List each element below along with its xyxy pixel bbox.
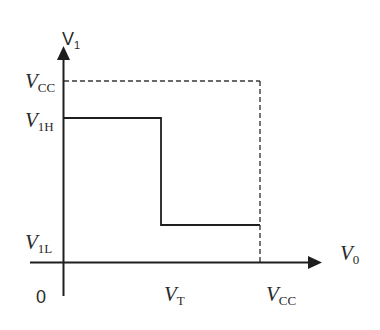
vcc-x-sub: CC — [279, 293, 296, 308]
x-axis-label-main: V — [340, 241, 353, 265]
v1l-tick-label: V1L — [25, 232, 52, 255]
y-axis-label-main: V — [62, 29, 74, 49]
v1h-sub: 1H — [38, 119, 54, 134]
x-axis-label-sub: 0 — [353, 252, 360, 267]
vcc-y-main: V — [25, 69, 38, 93]
vcc-x-main: V — [266, 282, 279, 306]
y-axis-label: V1 — [62, 30, 80, 51]
v1l-sub: 1L — [38, 241, 52, 256]
vt-main: V — [164, 282, 177, 306]
v1l-main: V — [25, 230, 38, 254]
vcc-x-tick-label: VCC — [266, 284, 296, 307]
vcc-y-sub: CC — [38, 80, 55, 95]
origin-text: 0 — [36, 287, 46, 307]
v1h-main: V — [25, 108, 38, 132]
v1h-tick-label: V1H — [25, 110, 54, 133]
y-axis-label-sub: 1 — [74, 39, 80, 51]
origin-label: 0 — [36, 288, 46, 306]
vt-sub: T — [177, 293, 185, 308]
vt-tick-label: VT — [164, 284, 185, 307]
x-axis-label: V0 — [340, 243, 359, 266]
vcc-y-tick-label: VCC — [25, 71, 55, 94]
diagram-canvas — [0, 0, 380, 330]
x-axis-arrow-icon — [308, 256, 322, 269]
transfer-curve — [64, 118, 260, 225]
